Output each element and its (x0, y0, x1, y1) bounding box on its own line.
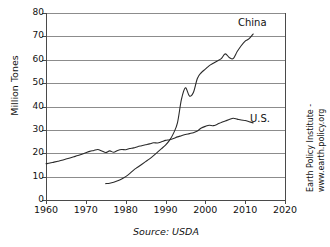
series-line-china (106, 34, 253, 184)
series-label-us: U.S. (250, 113, 270, 124)
series-label-china: China (238, 17, 267, 28)
credit-line-2: www.earth.policy.org (317, 109, 326, 192)
series-line-us (46, 118, 253, 164)
series-lines (0, 0, 330, 247)
source-note: Source: USDA (46, 226, 286, 237)
credit-line-1: Earth Policy Institute - (306, 104, 315, 192)
credit-block: Earth Policy Institute - www.earth.polic… (296, 20, 330, 200)
y-axis-title: Million Tones (9, 26, 20, 146)
chart-container: 01020304050607080 1960197019801990200020… (0, 0, 330, 247)
